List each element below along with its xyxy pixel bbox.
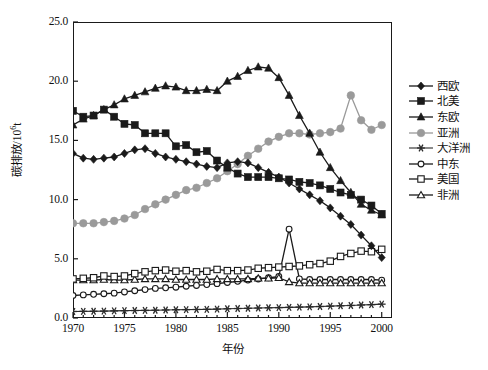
legend-label: 亚洲 [434, 127, 459, 139]
y-axis-title-base: 碳排放/10 [11, 130, 23, 178]
open-square-icon [408, 172, 434, 186]
filled-triangle-icon [408, 110, 434, 124]
legend: 西欧北美东欧亚洲大洋洲中东美国非洲 [408, 78, 486, 203]
y-tick-label: 15.0 [24, 134, 68, 146]
filled-diamond-icon [408, 79, 434, 93]
open-circle-icon [408, 157, 434, 171]
x-tick-label: 2000 [352, 322, 412, 334]
y-axis-title-unit: t [11, 123, 23, 126]
asterisk-icon [408, 141, 434, 155]
legend-item-非洲[interactable]: 非洲 [408, 187, 486, 203]
legend-label: 中东 [434, 158, 459, 170]
y-tick-label: 10.0 [24, 194, 68, 206]
filled-circle-icon [408, 126, 434, 140]
y-axis-title-exponent: 6 [9, 126, 18, 130]
legend-item-美国[interactable]: 美国 [408, 172, 486, 188]
legend-label: 非洲 [434, 189, 459, 201]
legend-label: 大洋洲 [434, 142, 470, 154]
legend-item-东欧[interactable]: 东欧 [408, 109, 486, 125]
y-tick-label: 5.0 [24, 253, 68, 265]
y-tick-label: 20.0 [24, 75, 68, 87]
legend-label: 东欧 [434, 111, 459, 123]
filled-square-icon [408, 94, 434, 108]
plot-area [73, 22, 392, 318]
legend-item-北美[interactable]: 北美 [408, 94, 486, 110]
legend-label: 西欧 [434, 80, 459, 92]
legend-item-西欧[interactable]: 西欧 [408, 78, 486, 94]
legend-item-亚洲[interactable]: 亚洲 [408, 125, 486, 141]
carbon-emissions-line-chart: 0.05.010.015.020.025.0 碳排放/106t 19701975… [0, 0, 488, 370]
legend-label: 美国 [434, 173, 459, 185]
y-tick-label: 25.0 [24, 16, 68, 28]
legend-item-大洋洲[interactable]: 大洋洲 [408, 140, 486, 156]
legend-item-中东[interactable]: 中东 [408, 156, 486, 172]
y-axis-title: 碳排放/106t [8, 90, 24, 210]
x-axis-title: 年份 [73, 340, 392, 356]
y-axis-tick-labels: 0.05.010.015.020.025.0 [20, 0, 68, 320]
legend-label: 北美 [434, 95, 459, 107]
open-triangle-icon [408, 188, 434, 202]
